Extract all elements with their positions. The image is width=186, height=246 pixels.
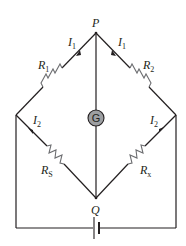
current-arrow-icon — [159, 127, 164, 132]
galvanometer-branch: G — [88, 33, 104, 198]
resistor-rs-icon — [47, 145, 64, 164]
current-i1-left-label: I1 — [67, 35, 76, 51]
resistor-r1-label: R1 — [37, 58, 49, 74]
battery-icon — [94, 217, 99, 239]
arm-top-right — [96, 33, 176, 115]
current-i2-left-label: I2 — [32, 113, 41, 129]
node-q-dot — [95, 197, 98, 200]
arm-top-left — [16, 33, 96, 115]
galvanometer-label: G — [92, 112, 101, 124]
current-i2-right-label: I2 — [149, 113, 158, 129]
resistor-rx-label: Rx — [139, 163, 151, 179]
node-p-dot — [95, 32, 98, 35]
resistor-r2-label: R2 — [142, 58, 154, 74]
resistor-rx-icon — [128, 145, 145, 164]
arm-bottom-left — [16, 115, 96, 198]
wheatstone-bridge-diagram: G P Q I1 I1 I2 I2 R1 R2 RS Rx — [0, 0, 186, 246]
resistor-rs-label: RS — [40, 163, 53, 179]
arm-bottom-right — [96, 115, 176, 198]
current-i1-right-label: I1 — [117, 35, 126, 51]
node-q-label: Q — [91, 203, 100, 217]
node-p-label: P — [91, 16, 100, 30]
